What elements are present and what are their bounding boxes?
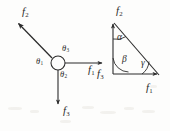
label-angle-theta3: θ3 <box>62 44 69 54</box>
label-force-f1: f1 <box>88 64 95 77</box>
label-force-f2: f2 <box>22 6 29 19</box>
label-force-f3: f3 <box>63 105 70 118</box>
force-triangle-group <box>113 23 159 75</box>
triangle-side-hypotenuse <box>114 23 159 75</box>
label-angle-theta2: θ2 <box>60 70 67 80</box>
force-vector-f2 <box>19 24 53 59</box>
label-triangle-f3: f3 <box>97 68 104 81</box>
label-triangle-f2: f2 <box>116 5 123 18</box>
force-diagram-figure: f2 f1 f3 θ1 θ2 θ3 f2 f3 f1 α β γ <box>0 0 170 131</box>
label-angle-theta1: θ1 <box>36 57 43 67</box>
label-angle-gamma: γ <box>141 59 145 69</box>
label-triangle-f1: f1 <box>146 82 153 95</box>
label-angle-beta: β <box>122 55 127 65</box>
label-angle-alpha: α <box>117 33 122 43</box>
force-node-circle <box>51 56 65 70</box>
